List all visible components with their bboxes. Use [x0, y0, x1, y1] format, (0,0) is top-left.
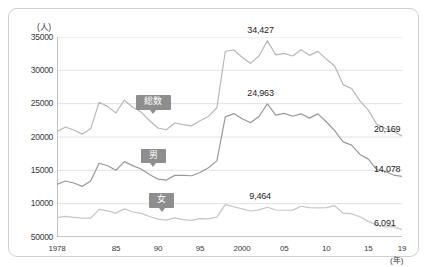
x-axis-tick-label: 10	[311, 244, 341, 253]
y-axis-tick-label: 35000	[13, 32, 53, 42]
x-axis-unit-label: (年)	[390, 254, 403, 265]
end-value-label: 20,169	[374, 124, 400, 134]
data-lines	[57, 41, 402, 230]
series-badge-女: 女	[149, 193, 175, 208]
x-axis-tick-label: 19	[387, 244, 417, 253]
end-value-label: 6,091	[374, 218, 396, 228]
x-axis-tick-label: 85	[101, 244, 131, 253]
y-axis-tick-label: 20000	[13, 132, 53, 142]
series-line-女	[57, 205, 402, 230]
x-axis-tick-label: 1978	[42, 244, 72, 253]
chart-frame: (人) 50000100001500020000250003000035000 …	[8, 8, 419, 257]
end-value-label: 14,078	[374, 164, 400, 174]
chart-plot-area	[57, 37, 402, 237]
x-axis-tick-label: 15	[353, 244, 383, 253]
x-axis-tick-label: 2000	[227, 244, 257, 253]
peak-annotation: 24,963	[247, 88, 273, 98]
y-axis-tick-label: 30000	[13, 65, 53, 75]
y-axis-unit-label: (人)	[37, 20, 51, 32]
y-axis-tick-label: 50000	[13, 232, 53, 242]
y-axis-tick-label: 25000	[13, 98, 53, 108]
peak-annotation: 34,427	[247, 25, 273, 35]
peak-annotation: 9,464	[249, 191, 271, 201]
series-line-総数	[57, 41, 402, 136]
series-line-男	[57, 104, 402, 186]
series-badge-男: 男	[141, 149, 167, 164]
line-chart-svg	[57, 37, 402, 237]
y-axis-tick-label: 10000	[13, 198, 53, 208]
x-axis-tick-label: 90	[143, 244, 173, 253]
y-axis-tick-label: 15000	[13, 165, 53, 175]
x-axis-tick-label: 95	[185, 244, 215, 253]
x-axis-tick-label: 05	[269, 244, 299, 253]
series-badge-総数: 総数	[136, 95, 171, 110]
gridlines	[57, 37, 402, 237]
